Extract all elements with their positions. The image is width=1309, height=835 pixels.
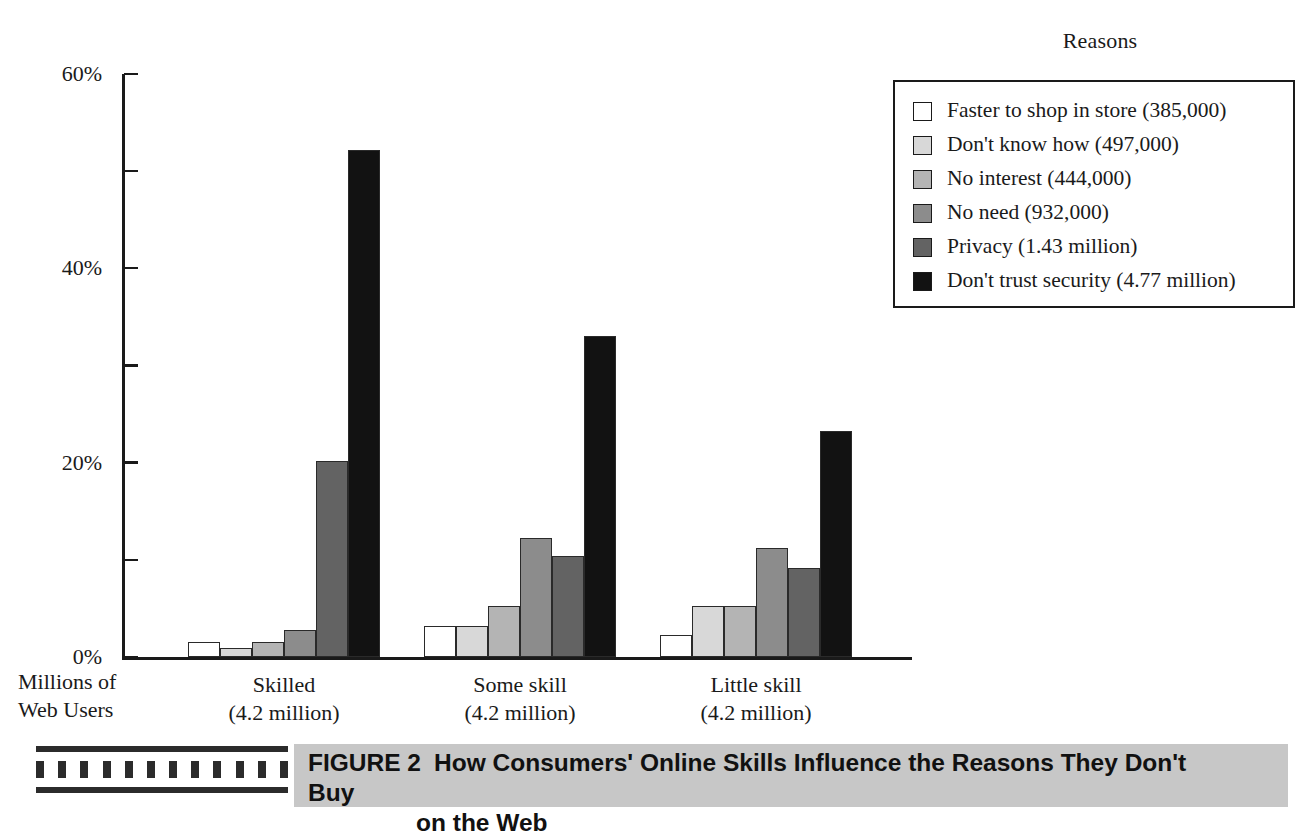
y-axis-caption: Millions of Web Users xyxy=(18,668,116,723)
y-axis-tick xyxy=(124,73,138,75)
y-axis-tick-label: 20% xyxy=(22,450,102,476)
legend-item: Don't trust security (4.77 million) xyxy=(913,264,1293,298)
bar xyxy=(424,626,456,657)
x-axis-group-sublabel: (4.2 million) xyxy=(228,699,339,727)
bar xyxy=(488,606,520,657)
legend-swatch-privacy xyxy=(913,238,932,257)
x-axis-group-label: Skilled(4.2 million) xyxy=(228,671,339,726)
legend-swatch-dont-know-how xyxy=(913,136,932,155)
y-axis-tick-label: 60% xyxy=(22,61,102,87)
bar xyxy=(660,635,692,657)
x-axis-group-sublabel: (4.2 million) xyxy=(700,699,811,727)
x-axis-group-name: Little skill xyxy=(700,671,811,699)
legend-item: Privacy (1.43 million) xyxy=(913,230,1293,264)
caption-rule-bottom xyxy=(36,787,288,793)
legend-label: Don't know how (497,000) xyxy=(947,134,1179,156)
bar xyxy=(820,431,852,657)
legend-item: No need (932,000) xyxy=(913,196,1293,230)
bar xyxy=(520,538,552,658)
bar xyxy=(552,556,584,657)
caption-dash xyxy=(103,761,111,778)
caption-dash xyxy=(36,761,44,778)
bar xyxy=(724,606,756,657)
legend-label: Don't trust security (4.77 million) xyxy=(947,270,1236,292)
x-axis-group-sublabel: (4.2 million) xyxy=(464,699,575,727)
legend-swatch-no-need xyxy=(913,204,932,223)
caption-dash xyxy=(280,761,288,778)
figure-number: FIGURE 2 xyxy=(308,749,421,776)
caption-dash xyxy=(258,761,266,778)
bar xyxy=(220,648,252,657)
legend-swatch-faster-to-shop-in-store xyxy=(913,102,932,121)
caption-dash xyxy=(125,761,133,778)
bar xyxy=(456,626,488,657)
y-axis-tick xyxy=(124,170,138,172)
y-axis-tick xyxy=(124,559,138,561)
legend-label: Faster to shop in store (385,000) xyxy=(947,100,1226,122)
caption-dash-row xyxy=(36,761,288,778)
bar xyxy=(316,461,348,657)
caption-dash xyxy=(58,761,66,778)
bar xyxy=(284,630,316,657)
legend-swatch-dont-trust-security xyxy=(913,272,932,291)
caption-dash xyxy=(169,761,177,778)
y-axis-tick xyxy=(124,461,138,463)
caption-text: FIGURE 2How Consumers' Online Skills Inf… xyxy=(308,748,1208,835)
caption-line-2: on the Web xyxy=(416,808,1208,835)
y-axis-caption-line1: Millions of xyxy=(18,668,116,696)
legend-item: Don't know how (497,000) xyxy=(913,128,1293,162)
y-axis-tick xyxy=(124,656,138,658)
bar xyxy=(348,150,380,657)
y-axis-tick xyxy=(124,267,138,269)
x-axis-group-label: Some skill(4.2 million) xyxy=(464,671,575,726)
caption-line-1: How Consumers' Online Skills Influence t… xyxy=(308,749,1186,806)
legend-item: No interest (444,000) xyxy=(913,162,1293,196)
caption-dash xyxy=(147,761,155,778)
x-axis-group-name: Skilled xyxy=(228,671,339,699)
caption-dash xyxy=(191,761,199,778)
legend-title: Reasons xyxy=(900,28,1300,54)
bar xyxy=(756,548,788,657)
y-axis-caption-line2: Web Users xyxy=(18,696,116,724)
legend-item: Faster to shop in store (385,000) xyxy=(913,94,1293,128)
caption-dash xyxy=(213,761,221,778)
bar xyxy=(584,336,616,657)
figure-caption: FIGURE 2How Consumers' Online Skills Inf… xyxy=(36,744,1288,807)
bar xyxy=(692,606,724,657)
legend-swatch-no-interest xyxy=(913,170,932,189)
legend-label: No need (932,000) xyxy=(947,202,1109,224)
caption-dash xyxy=(80,761,88,778)
bar xyxy=(788,568,820,657)
legend-label: No interest (444,000) xyxy=(947,168,1132,190)
x-axis-group-label: Little skill(4.2 million) xyxy=(700,671,811,726)
y-axis-tick xyxy=(124,364,138,366)
x-axis-line xyxy=(122,657,912,660)
caption-rule-top xyxy=(36,746,288,752)
plot-area: 0%20%40%60% xyxy=(122,74,912,657)
bar xyxy=(252,642,284,657)
legend-box: Faster to shop in store (385,000) Don't … xyxy=(893,80,1295,308)
bar xyxy=(188,642,220,657)
x-axis-group-name: Some skill xyxy=(464,671,575,699)
caption-decoration xyxy=(36,746,288,793)
legend-label: Privacy (1.43 million) xyxy=(947,236,1138,258)
caption-dash xyxy=(236,761,244,778)
y-axis-tick-label: 0% xyxy=(22,644,102,670)
y-axis-tick-label: 40% xyxy=(22,255,102,281)
